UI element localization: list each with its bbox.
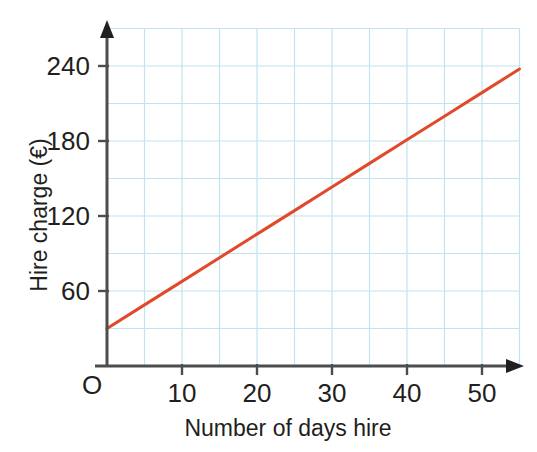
origin-label: O [82, 370, 102, 400]
series-line-0 [107, 69, 520, 329]
y-tick-label: 240 [47, 51, 90, 81]
x-axis-title: Number of days hire [184, 415, 391, 441]
x-axis [95, 359, 524, 375]
y-tick-labels: 60120180240 [47, 51, 90, 306]
y-tick-label: 120 [47, 201, 90, 231]
x-tick-label: 10 [168, 378, 197, 408]
x-axis-arrowhead [506, 359, 524, 373]
y-axis-title: Hire charge (€) [26, 138, 52, 291]
data-series-group [107, 69, 520, 329]
y-tick-label: 60 [61, 276, 90, 306]
x-tick-label: 30 [318, 378, 347, 408]
x-tick-label: 20 [243, 378, 272, 408]
chart-svg: 60120180240 1020304050 O Number of days … [0, 0, 537, 452]
x-tick-labels: 1020304050 [168, 378, 497, 408]
y-axis [98, 20, 114, 366]
x-tick-label: 50 [468, 378, 497, 408]
y-tick-label: 180 [47, 126, 90, 156]
x-tick-label: 40 [393, 378, 422, 408]
hire-charge-chart: 60120180240 1020304050 O Number of days … [0, 0, 537, 452]
